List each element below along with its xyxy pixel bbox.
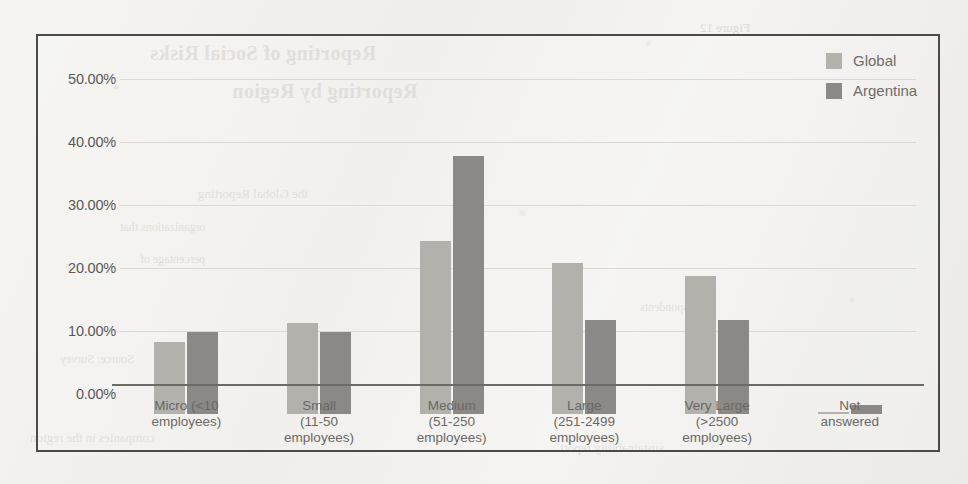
x-axis-line <box>112 384 924 386</box>
x-axis-tick-label: Notanswered <box>783 398 916 446</box>
bar-global[interactable] <box>420 241 451 414</box>
y-axis-tick-label: 50.00% <box>68 71 116 87</box>
bar-global[interactable] <box>685 276 716 414</box>
x-axis: Micro (<10employees)Small(11-50employees… <box>120 398 916 446</box>
chart-legend: GlobalArgentina <box>826 52 917 112</box>
plot-area <box>120 48 916 414</box>
x-axis-tick-label: Very Large(>2500employees) <box>651 398 784 446</box>
x-axis-tick-label: Micro (<10employees) <box>120 398 253 446</box>
bar-groups <box>120 68 916 414</box>
bar-global[interactable] <box>552 263 583 414</box>
legend-item[interactable]: Argentina <box>826 82 917 99</box>
chart-frame: 0.00%10.00%20.00%30.00%40.00%50.00% Micr… <box>36 34 940 452</box>
global-swatch <box>826 53 842 69</box>
bar-group <box>120 68 253 414</box>
bar-group <box>651 68 784 414</box>
bar-group <box>783 68 916 414</box>
x-axis-tick-label: Medium(51-250employees) <box>385 398 518 446</box>
x-axis-tick-label: Large(251-2499employees) <box>518 398 651 446</box>
y-axis-tick-label: 0.00% <box>76 386 116 402</box>
bar-group <box>253 68 386 414</box>
x-axis-tick-label: Small(11-50employees) <box>253 398 386 446</box>
legend-item[interactable]: Global <box>826 52 917 69</box>
legend-item-label: Argentina <box>853 82 917 99</box>
y-axis-tick-label: 20.00% <box>68 260 116 276</box>
bar-group <box>518 68 651 414</box>
argentina-swatch <box>826 83 842 99</box>
y-axis-tick-label: 30.00% <box>68 197 116 213</box>
y-axis-tick-label: 40.00% <box>68 134 116 150</box>
bar-argentina[interactable] <box>453 156 484 414</box>
bar-group <box>385 68 518 414</box>
y-axis-tick-label: 10.00% <box>68 323 116 339</box>
y-axis: 0.00%10.00%20.00%30.00%40.00%50.00% <box>50 48 116 394</box>
legend-item-label: Global <box>853 52 896 69</box>
